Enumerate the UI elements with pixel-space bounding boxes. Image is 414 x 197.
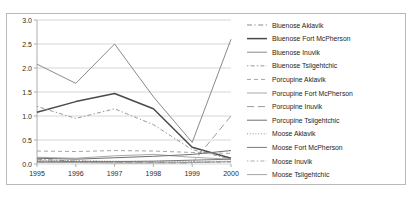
legend-label[interactable]: Porcupine Fort McPherson <box>272 90 353 98</box>
ytick-label-group: 0.00.51.01.52.02.53.0 <box>22 17 32 168</box>
y-tick-label: 1.5 <box>22 89 32 96</box>
xtick-label-group: 199519961997199819992000 <box>29 170 239 177</box>
x-tick-label: 1997 <box>107 170 123 177</box>
legend-label[interactable]: Moose Fort McPherson <box>272 144 343 151</box>
y-tick-label: 0.0 <box>22 161 32 168</box>
x-tick-label: 1998 <box>146 170 162 177</box>
legend-label[interactable]: Porcupine Tsiigehtchic <box>272 117 340 125</box>
y-tick-label: 0.5 <box>22 137 32 144</box>
y-tick-label: 2.0 <box>22 65 32 72</box>
line-chart: 0.00.51.01.52.02.53.0 199519961997199819… <box>7 14 405 184</box>
legend-label[interactable]: Bluenose Inuvik <box>272 49 321 56</box>
x-tick-label: 2000 <box>223 170 239 177</box>
x-tick-label: 1996 <box>68 170 84 177</box>
series-line <box>37 159 231 161</box>
legend-label[interactable]: Moose Aklavik <box>272 130 316 137</box>
series-line <box>37 93 231 158</box>
series-line <box>37 116 231 163</box>
x-tick-label: 1995 <box>29 170 45 177</box>
y-tick-label: 2.5 <box>22 41 32 48</box>
legend-label[interactable]: Bluenose Fort McPherson <box>272 35 351 42</box>
legend-label[interactable]: Moose Inuvik <box>272 158 313 165</box>
x-tick-label: 1999 <box>184 170 200 177</box>
legend-label[interactable]: Porcupine Aklavik <box>272 76 326 84</box>
series-group <box>37 39 231 163</box>
legend-label[interactable]: Bluenose Tsiigehtchic <box>272 62 338 70</box>
y-tick-label: 1.0 <box>22 113 32 120</box>
y-tick-label: 3.0 <box>22 17 32 24</box>
series-line <box>37 39 231 142</box>
legend-label[interactable]: Moose Tsiigehtchic <box>272 171 330 179</box>
chart-frame: 0.00.51.01.52.02.53.0 199519961997199819… <box>6 13 406 185</box>
grid-group <box>37 20 231 164</box>
legend-label[interactable]: Porcupine Inuvik <box>272 103 323 111</box>
legend-group: Bluenose AklavikBluenose Fort McPhersonB… <box>247 22 353 180</box>
axis-group <box>34 20 231 167</box>
legend-label[interactable]: Bluenose Aklavik <box>272 22 324 29</box>
